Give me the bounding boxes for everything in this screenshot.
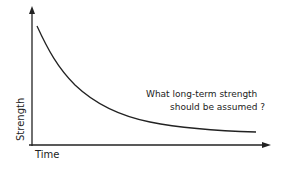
diagram-canvas — [0, 0, 294, 171]
x-axis-arrow-icon — [262, 142, 271, 148]
annotation-line-1: What long-term strength — [146, 89, 257, 100]
y-axis — [29, 6, 35, 146]
y-axis-label: Strength — [15, 98, 26, 141]
x-axis-label: Time — [35, 149, 59, 160]
annotation-line-2: should be assumed ? — [170, 102, 265, 113]
strength-decay-curve — [37, 26, 256, 132]
y-axis-arrow-icon — [29, 6, 35, 14]
x-axis — [29, 142, 271, 148]
